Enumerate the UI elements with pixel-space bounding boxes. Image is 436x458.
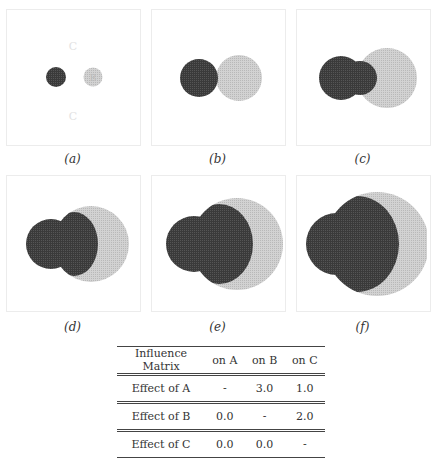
table-cell: - xyxy=(245,403,285,431)
panel-b xyxy=(151,9,286,146)
panel-a: C B C xyxy=(6,9,141,146)
panel-e-figure xyxy=(152,176,285,311)
table-cell: 1.0 xyxy=(285,375,325,403)
label-b: B xyxy=(90,73,97,83)
header-cell: on B xyxy=(245,347,285,375)
table-cell: - xyxy=(205,375,245,403)
table-cell: 0.0 xyxy=(205,403,245,431)
circle-a xyxy=(46,67,66,87)
header-cell: on C xyxy=(285,347,325,375)
caption-d: (d) xyxy=(6,320,139,334)
panel-f-figure xyxy=(297,176,430,311)
panel-c xyxy=(296,9,431,146)
caption-b: (b) xyxy=(151,152,284,166)
caption-a: (a) xyxy=(6,152,139,166)
panel-c-figure xyxy=(297,10,430,145)
caption-f: (f) xyxy=(296,320,429,334)
table-cell: - xyxy=(285,431,325,458)
table-row: Effect of A - 3.0 1.0 xyxy=(117,375,325,403)
row-label: Effect of C xyxy=(117,431,205,458)
header-cell: on A xyxy=(205,347,245,375)
table-row: Effect of C 0.0 0.0 - xyxy=(117,431,325,458)
panel-f xyxy=(296,175,431,312)
table-cell: 0.0 xyxy=(245,431,285,458)
panel-d xyxy=(6,175,141,312)
panel-a-figure: C B C xyxy=(7,10,140,145)
table-row: Effect of B 0.0 - 2.0 xyxy=(117,403,325,431)
panel-b-figure xyxy=(152,10,285,145)
caption-c: (c) xyxy=(296,152,429,166)
row-label: Effect of B xyxy=(117,403,205,431)
caption-e: (e) xyxy=(151,320,284,334)
panel-d-figure xyxy=(7,176,140,311)
header-cell: Influence Matrix xyxy=(117,347,205,375)
panel-e xyxy=(151,175,286,312)
label-c-bottom: C xyxy=(69,110,77,123)
table-header-row: Influence Matrix on A on B on C xyxy=(117,347,325,375)
table-cell: 3.0 xyxy=(245,375,285,403)
row-label: Effect of A xyxy=(117,375,205,403)
table-cell: 0.0 xyxy=(205,431,245,458)
label-c-top: C xyxy=(69,40,77,53)
influence-matrix-table: Influence Matrix on A on B on C Effect o… xyxy=(117,346,325,458)
table-cell: 2.0 xyxy=(285,403,325,431)
